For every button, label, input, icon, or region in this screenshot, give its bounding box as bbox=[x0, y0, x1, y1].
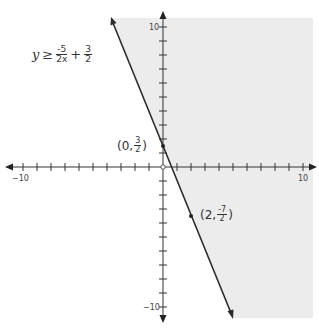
pt2-fraction: -7 2 bbox=[217, 206, 227, 223]
eq-lhs: y bbox=[32, 47, 39, 62]
x-axis-left-arrow-icon bbox=[5, 164, 13, 171]
y-axis-down-arrow-icon bbox=[160, 315, 167, 323]
eq-fraction-1: -5 2x bbox=[56, 45, 67, 64]
shaded-solution-region bbox=[111, 18, 313, 318]
y-tick-label-min: −10 bbox=[143, 303, 160, 312]
pt2-suffix: ) bbox=[228, 208, 233, 222]
pt1-suffix: ) bbox=[142, 139, 147, 153]
y-axis-up-arrow-icon bbox=[160, 11, 167, 19]
point-label-y-intercept: (0, 3 2 ) bbox=[117, 137, 147, 154]
point-2-neg3.5 bbox=[189, 214, 193, 218]
pt1-den: 2 bbox=[135, 146, 140, 154]
pt1-prefix: (0, bbox=[117, 139, 133, 153]
point-label-2: (2, -7 2 ) bbox=[200, 206, 233, 223]
eq-frac2-den: 2 bbox=[85, 55, 91, 64]
x-tick-label-max: 10 bbox=[298, 174, 308, 183]
pt1-fraction: 3 2 bbox=[134, 137, 141, 154]
eq-symbol: ≥ bbox=[42, 47, 53, 62]
eq-frac1-den: 2x bbox=[56, 55, 67, 64]
pt2-prefix: (2, bbox=[200, 208, 216, 222]
y-tick-label-max: 10 bbox=[149, 23, 159, 32]
point-y-intercept bbox=[161, 144, 165, 148]
x-tick-label-min: −10 bbox=[12, 174, 29, 183]
pt2-den: 2 bbox=[220, 215, 225, 223]
inequality-label: y ≥ -5 2x + 3 2 bbox=[32, 45, 92, 64]
line-bottom-arrow-icon bbox=[228, 310, 234, 320]
eq-fraction-2: 3 2 bbox=[84, 45, 92, 64]
eq-operator: + bbox=[70, 47, 81, 62]
origin-marker bbox=[161, 165, 165, 169]
